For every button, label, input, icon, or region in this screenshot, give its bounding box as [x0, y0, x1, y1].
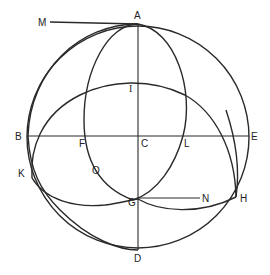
arc-KIH-upper — [32, 83, 236, 197]
arc-A-K-bottom — [28, 24, 138, 250]
tangent-line-MA — [50, 22, 138, 24]
label-M: M — [38, 17, 46, 28]
label-N: N — [202, 193, 209, 204]
label-O: O — [92, 165, 100, 176]
label-E: E — [251, 131, 258, 142]
label-C: C — [141, 138, 148, 149]
geometric-diagram: M A I B F C L E K O G N H D — [0, 0, 270, 275]
label-A: A — [134, 10, 141, 21]
label-D: D — [134, 253, 141, 264]
label-G: G — [128, 197, 136, 208]
label-L: L — [184, 138, 190, 149]
label-H: H — [240, 193, 247, 204]
label-B: B — [15, 131, 22, 142]
label-I: I — [129, 83, 132, 94]
label-K: K — [18, 168, 25, 179]
label-F: F — [79, 138, 85, 149]
